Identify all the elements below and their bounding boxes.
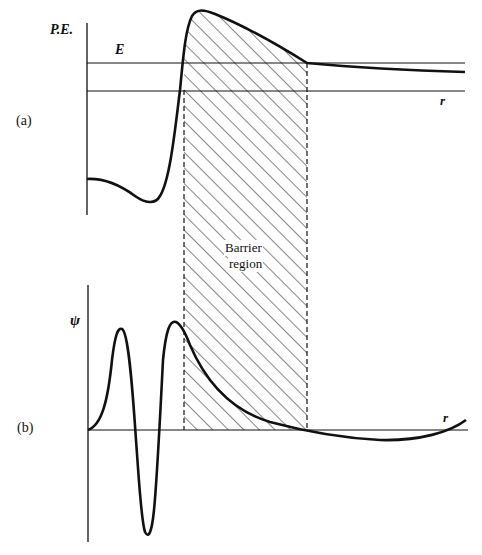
energy-label: E bbox=[115, 42, 124, 58]
panel-b-label: (b) bbox=[17, 420, 33, 436]
diagram-canvas bbox=[0, 0, 482, 555]
barrier-label-line2: region bbox=[228, 256, 263, 272]
panel-b-r-label: r bbox=[443, 410, 448, 426]
panel-a-label: (a) bbox=[16, 113, 32, 129]
panel-a-r-label: r bbox=[440, 93, 445, 109]
pe-axis-label: P.E. bbox=[50, 22, 73, 38]
barrier-label-line1: Barrier bbox=[224, 240, 263, 256]
psi-axis-label: ψ bbox=[70, 312, 80, 329]
